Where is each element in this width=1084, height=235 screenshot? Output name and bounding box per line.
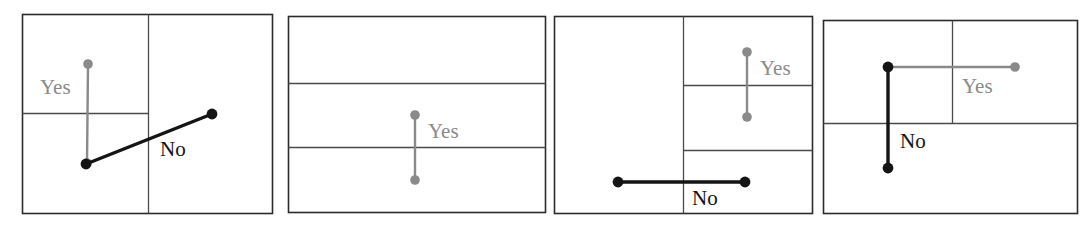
panel-4: YesNo [824,21,1078,214]
panel-3: YesNo [555,17,813,214]
yes-segment-label: Yes [428,119,459,143]
no-segment-endpoint-start-dot [613,177,624,188]
figure-root: YesNoYesYesNoYesNo [0,0,1084,235]
yes-segment-endpoint-start-dot [83,59,93,69]
partition-figure-svg: YesNoYesYesNoYesNo [0,0,1084,235]
yes-segment-endpoint-end-dot [410,175,420,185]
yes-segment-endpoint-start-dot [410,110,420,120]
yes-segment-label: Yes [40,75,71,99]
no-segment-label: No [160,137,186,161]
yes-segment-label: Yes [962,74,993,98]
no-segment-endpoint-start-dot [883,62,894,73]
no-segment-endpoint-end-dot [883,163,894,174]
no-segment-label: No [900,129,926,153]
panel-1: YesNo [23,15,273,214]
yes-segment-label: Yes [760,56,791,80]
no-segment-endpoint-end-dot [740,177,751,188]
no-segment-endpoint-start-dot [81,159,92,170]
panel-border-rect [824,21,1078,214]
yes-segment-endpoint-start-dot [742,47,752,57]
no-segment-label: No [692,186,718,210]
yes-segment-endpoint-end-dot [742,112,752,122]
panel-2: Yes [289,17,546,213]
no-segment-endpoint-end-dot [207,109,218,120]
yes-segment-line [87,64,88,163]
yes-segment-endpoint-end-dot [1010,62,1020,72]
